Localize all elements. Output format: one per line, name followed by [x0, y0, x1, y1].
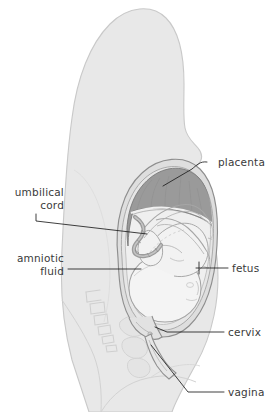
label-placenta: placenta	[218, 156, 265, 168]
anatomy-illustration: placenta umbilical cord amniotic fluid f…	[0, 0, 278, 412]
label-amniotic-fluid-line1: amniotic	[17, 252, 64, 264]
label-umbilical-cord-line1: umbilical	[15, 186, 64, 198]
label-umbilical-cord-line2: cord	[40, 199, 64, 211]
pregnancy-anatomy-figure: placenta umbilical cord amniotic fluid f…	[0, 0, 278, 412]
label-cervix: cervix	[228, 326, 261, 338]
label-fetus: fetus	[232, 262, 259, 274]
label-vagina: vagina	[228, 386, 265, 398]
label-amniotic-fluid-line2: fluid	[40, 265, 64, 277]
